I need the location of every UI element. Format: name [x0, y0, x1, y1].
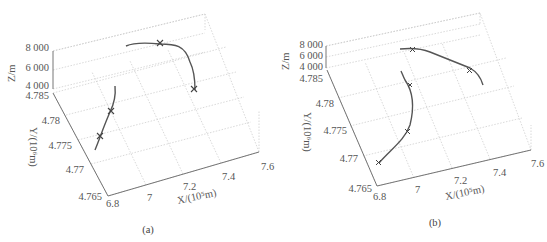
- x-markers: [376, 47, 472, 165]
- y-tick: 4.775: [323, 125, 347, 136]
- caption-b: (b): [429, 217, 442, 229]
- x-markers: [97, 40, 197, 139]
- caption-a: (a): [142, 224, 154, 236]
- trajectory-1: [379, 71, 412, 163]
- y-tick: 4.785: [299, 73, 323, 84]
- y-tick: 4.78: [316, 98, 334, 109]
- z-tick: 8 000: [25, 42, 49, 53]
- x-tick: 7: [415, 184, 420, 195]
- z-tick: 6 000: [299, 50, 323, 61]
- z-tick: 4 000: [299, 61, 323, 72]
- z-axis-label: Z/m: [6, 65, 17, 83]
- y-tick: 4.77: [66, 164, 84, 175]
- y-tick: 4.78: [42, 115, 60, 126]
- x-tick: 7.6: [261, 161, 274, 172]
- y-tick: 4.765: [348, 183, 372, 194]
- x-tick: 6.8: [373, 191, 386, 202]
- panel-a: 8 000 6 000 4 000 Z/m 4.785 4.78 4.775 4…: [6, 14, 274, 236]
- y-axis-label: Y/(10⁶m): [301, 112, 313, 152]
- panel-b: 8 000 6 000 4 000 Z/m 4.785 4.78 4.775 4…: [280, 13, 544, 229]
- x-tick: 7.2: [454, 175, 467, 186]
- y-tick: 4.785: [25, 90, 49, 101]
- z-tick: 6 000: [25, 62, 49, 73]
- trajectory-1: [95, 86, 115, 150]
- z-axis-label: Z/m: [280, 53, 291, 71]
- x-tick: 7: [147, 192, 152, 203]
- trajectory-2: [126, 43, 195, 90]
- y-axis-label: Y/(10⁶m): [27, 127, 39, 167]
- y-tick: 4.77: [340, 153, 358, 164]
- x-axis-label: X/(10⁵m): [444, 183, 486, 203]
- y-tick: 4.775: [48, 140, 72, 151]
- x-tick: 7.4: [493, 167, 507, 178]
- figure: 8 000 6 000 4 000 Z/m 4.785 4.78 4.775 4…: [0, 0, 547, 242]
- x-tick: 7.4: [222, 171, 236, 182]
- z-tick: 8 000: [299, 39, 323, 50]
- y-tick: 4.765: [78, 191, 102, 202]
- x-tick: 7.2: [183, 181, 196, 192]
- x-tick: 6.8: [106, 198, 119, 209]
- x-tick: 7.6: [531, 158, 544, 169]
